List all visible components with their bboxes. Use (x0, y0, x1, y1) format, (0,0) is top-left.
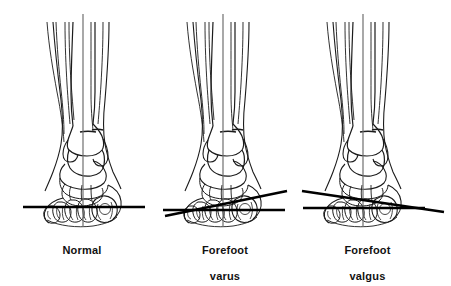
panel-normal (23, 14, 145, 227)
caption-normal-line1: Normal (20, 244, 144, 257)
caption-varus-line1: Forefoot (160, 244, 290, 257)
caption-varus-line2: varus (160, 270, 290, 283)
panel-forefoot-varus (163, 14, 287, 227)
caption-valgus-line2: valgus (300, 270, 435, 283)
caption-valgus-line1: Forefoot (300, 244, 435, 257)
caption-forefoot-varus: Forefoot varus (160, 231, 290, 286)
forefoot-angle-line-varus (165, 191, 287, 216)
caption-forefoot-valgus: Forefoot valgus (300, 231, 435, 286)
caption-normal: Normal (20, 231, 144, 270)
panel-forefoot-valgus (302, 14, 444, 227)
